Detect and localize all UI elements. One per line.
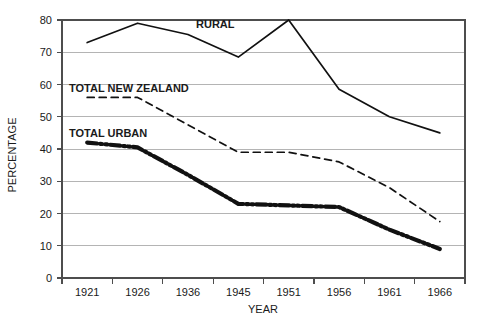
- x-tickmarks: [62, 278, 465, 284]
- x-tick-label: 1951: [276, 286, 300, 298]
- line-chart: 0 10 20 30 40 50 60 70 80 1921 1926 1936…: [0, 0, 501, 322]
- series-line-total-urban: [87, 143, 440, 249]
- x-axis-title: YEAR: [248, 303, 278, 315]
- series-line-rural: [87, 20, 440, 133]
- y-tickmarks: [57, 20, 62, 278]
- x-tick-label: 1936: [176, 286, 200, 298]
- series-annotation-total-urban: TOTAL URBAN: [69, 127, 147, 139]
- y-tick-label: 60: [40, 79, 52, 91]
- x-tick-label: 1945: [226, 286, 250, 298]
- x-tick-labels: 1921 1926 1936 1945 1951 1956 1961 1966: [75, 286, 452, 298]
- x-tick-label: 1961: [377, 286, 401, 298]
- y-tick-label: 80: [40, 14, 52, 26]
- x-tick-label: 1966: [428, 286, 452, 298]
- y-tick-label: 0: [46, 272, 52, 284]
- y-tick-label: 50: [40, 111, 52, 123]
- y-axis-title: PERCENTAGE: [6, 118, 18, 193]
- y-tick-label: 30: [40, 175, 52, 187]
- x-tick-label: 1921: [75, 286, 99, 298]
- series-annotation-rural: RURAL: [196, 18, 235, 30]
- y-tick-labels: 0 10 20 30 40 50 60 70 80: [40, 14, 52, 284]
- x-tick-label: 1926: [125, 286, 149, 298]
- y-tick-label: 10: [40, 240, 52, 252]
- x-tick-label: 1956: [327, 286, 351, 298]
- y-tick-label: 70: [40, 46, 52, 58]
- series-annotation-total-new-zealand: TOTAL NEW ZEALAND: [69, 82, 189, 94]
- y-tick-label: 40: [40, 143, 52, 155]
- chart-container: 0 10 20 30 40 50 60 70 80 1921 1926 1936…: [0, 0, 501, 322]
- y-tick-label: 20: [40, 208, 52, 220]
